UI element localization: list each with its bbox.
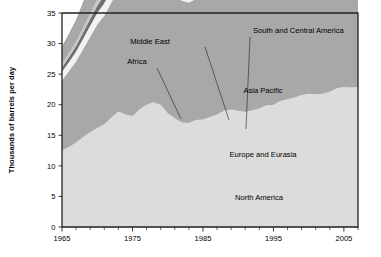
x-tick-label: 1965 (54, 234, 71, 243)
y-tick-label: 25 (47, 70, 55, 79)
series-label-south-and-central-america: South and Central America (253, 26, 345, 35)
y-tick-label: 0 (51, 223, 55, 232)
y-tick-label: 35 (47, 9, 55, 18)
y-axis-title-group: Thousands of barrels per day (7, 66, 16, 173)
series-label-middle-east: Middle East (130, 37, 171, 46)
series-label-africa: Africa (127, 57, 147, 66)
x-tick-label: 1995 (265, 234, 282, 243)
series-label-north-america: North America (235, 193, 284, 202)
series-label-europe-and-eurasia: Europe and Eurasia (229, 150, 297, 159)
chart-figure: 05101520253035 19651975198519952005 Midd… (0, 0, 381, 257)
y-axis-ticks: 05101520253035 (47, 9, 62, 232)
stacked-area-chart: 05101520253035 19651975198519952005 Midd… (0, 0, 381, 257)
x-tick-label: 2005 (335, 234, 352, 243)
x-tick-label: 1985 (194, 234, 211, 243)
y-tick-label: 5 (51, 192, 55, 201)
y-tick-label: 15 (47, 131, 55, 140)
y-tick-label: 10 (47, 162, 55, 171)
series-label-asia-pacific: Asia Pacific (243, 86, 282, 95)
y-tick-label: 20 (47, 100, 55, 109)
y-axis-title: Thousands of barrels per day (7, 66, 16, 173)
x-axis-ticks: 19651975198519952005 (54, 227, 358, 243)
y-tick-label: 30 (47, 39, 55, 48)
x-tick-label: 1975 (124, 234, 141, 243)
